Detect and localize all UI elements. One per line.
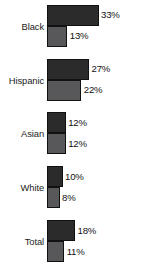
bar-value-label: 18% bbox=[75, 226, 96, 236]
category-label: Black bbox=[0, 22, 47, 32]
grouped-bar-chart: Black33%13%Hispanic27%22%Asian12%12%Whit… bbox=[0, 0, 142, 269]
bar-group: Black33%13% bbox=[0, 0, 142, 54]
bar-light bbox=[47, 133, 66, 154]
bar-value-label: 33% bbox=[99, 10, 120, 20]
bar-light bbox=[47, 26, 67, 47]
bar-light bbox=[47, 80, 81, 101]
bar-row: 10% bbox=[47, 166, 142, 187]
bar-row: 11% bbox=[47, 241, 142, 262]
bar-group: Asian12%12% bbox=[0, 108, 142, 162]
bar-group: Hispanic27%22% bbox=[0, 54, 142, 108]
bars-container: 12%12% bbox=[47, 112, 142, 156]
bar-row: 27% bbox=[47, 59, 142, 80]
bar-value-label: 12% bbox=[66, 139, 87, 149]
bar-row: 12% bbox=[47, 133, 142, 154]
bar-value-label: 10% bbox=[63, 172, 84, 182]
bar-group: Total18%11% bbox=[0, 215, 142, 269]
bars-container: 27%22% bbox=[47, 59, 142, 103]
bar-value-label: 27% bbox=[89, 64, 110, 74]
bar-dark bbox=[47, 112, 66, 133]
bar-row: 22% bbox=[47, 80, 142, 101]
bar-value-label: 12% bbox=[66, 118, 87, 128]
bars-container: 10%8% bbox=[47, 166, 142, 210]
bar-group: White10%8% bbox=[0, 161, 142, 215]
bar-dark bbox=[47, 220, 75, 241]
bars-container: 33%13% bbox=[47, 5, 142, 49]
bar-light bbox=[47, 187, 60, 208]
bar-row: 8% bbox=[47, 187, 142, 208]
bar-value-label: 22% bbox=[81, 85, 102, 95]
bar-dark bbox=[47, 59, 89, 80]
category-label: Asian bbox=[0, 129, 47, 139]
bars-container: 18%11% bbox=[47, 220, 142, 264]
bar-value-label: 8% bbox=[60, 193, 76, 203]
bar-value-label: 11% bbox=[64, 247, 84, 257]
bar-value-label: 13% bbox=[67, 31, 88, 41]
bar-dark bbox=[47, 5, 99, 26]
category-label: Total bbox=[0, 237, 47, 247]
bar-dark bbox=[47, 166, 63, 187]
category-label: White bbox=[0, 183, 47, 193]
category-label: Hispanic bbox=[0, 76, 47, 86]
bar-row: 12% bbox=[47, 112, 142, 133]
bar-light bbox=[47, 241, 64, 262]
bar-row: 18% bbox=[47, 220, 142, 241]
bar-row: 33% bbox=[47, 5, 142, 26]
bar-row: 13% bbox=[47, 26, 142, 47]
